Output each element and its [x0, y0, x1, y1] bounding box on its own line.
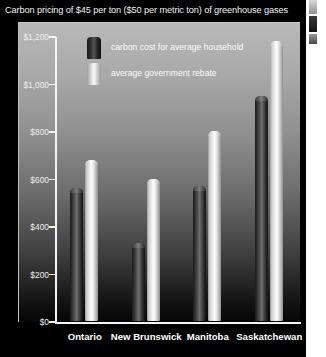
y-tick-1200: [49, 36, 56, 38]
bar-rebate-ontario: [85, 160, 98, 322]
bar-cap: [208, 131, 221, 136]
bar-cap: [70, 188, 83, 193]
y-tick-600: [49, 179, 56, 181]
y-tick-label-1200: $1,200: [0, 32, 49, 42]
legend-swatch-government-rebate: [87, 63, 101, 85]
y-tick-label-600: $600: [0, 175, 49, 185]
bar-cost-manitoba: [193, 186, 206, 321]
bar-cap: [270, 41, 283, 46]
bar-rebate-new-brunswick: [147, 179, 160, 322]
bar-cap: [193, 186, 206, 191]
bar-cap: [85, 160, 98, 165]
x-axis-line: [55, 322, 301, 324]
bar-cost-ontario: [70, 188, 83, 321]
y-tick-200: [49, 274, 56, 276]
y-tick-label-200: $200: [0, 270, 49, 280]
y-tick-label-400: $400: [0, 222, 49, 232]
strip-block-top-icon: [309, 0, 317, 14]
x-label-ontario: Ontario: [68, 331, 102, 342]
strip-block-middle-icon: [309, 16, 317, 32]
adjacent-window-strip: [306, 0, 326, 357]
bar-cap: [255, 96, 268, 101]
bar-cost-new-brunswick: [132, 243, 145, 321]
y-tick-0: [49, 321, 56, 323]
y-tick-label-800: $800: [0, 127, 49, 137]
x-label-new-brunswick: New Brunswick: [111, 331, 182, 342]
bar-rebate-manitoba: [208, 131, 221, 321]
chart-title: Carbon pricing of $45 per ton ($50 per m…: [5, 4, 305, 16]
plot-inner: $0$200$400$600$800$1,000$1,200 carbon co…: [19, 23, 300, 322]
y-tick-400: [49, 226, 56, 228]
y-tick-800: [49, 131, 56, 133]
plot-area: $0$200$400$600$800$1,000$1,200 carbon co…: [18, 22, 300, 322]
y-tick-1000: [49, 84, 56, 86]
legend-label-carbon-cost: carbon cost for average household: [111, 42, 243, 52]
legend-label-government-rebate: average government rebate: [111, 68, 217, 78]
x-label-manitoba: Manitoba: [187, 331, 229, 342]
bar-rebate-saskatchewan: [270, 41, 283, 321]
y-tick-label-1000: $1,000: [0, 80, 49, 90]
bar-cost-saskatchewan: [255, 96, 268, 321]
y-tick-label-0: $0: [0, 317, 49, 327]
legend-swatch-carbon-cost: [87, 37, 101, 59]
bar-cap: [132, 243, 145, 248]
strip-block-bottom-icon: [309, 34, 317, 44]
chart-figure: Carbon pricing of $45 per ton ($50 per m…: [0, 0, 306, 357]
x-label-saskatchewan: Saskatchewan: [236, 331, 302, 342]
bar-cap: [147, 179, 160, 184]
